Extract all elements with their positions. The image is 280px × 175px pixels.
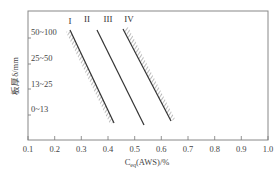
line-I: [70, 30, 114, 123]
line-IV: [123, 29, 171, 121]
y-tick-label: 13~25: [31, 79, 53, 89]
x-tick-label: 0.2: [49, 144, 60, 154]
label-IV: IV: [124, 14, 134, 24]
series-labels: I II III IV: [69, 14, 135, 26]
x-tick-label: 0.7: [183, 144, 194, 154]
y-tick-label: 0~13: [31, 104, 48, 114]
label-I: I: [69, 16, 72, 26]
x-tick-label: 0.4: [103, 144, 114, 154]
label-II: II: [84, 14, 90, 24]
y-tick-labels: 50~100 25~50 13~25 0~13: [31, 27, 57, 114]
x-tick-label: 1.0: [263, 144, 274, 154]
hatch-band: [124, 27, 175, 121]
y-tick-label: 25~50: [31, 53, 53, 63]
x-tick-labels: 0.1 0.2 0.3 0.4 0.5 0.6 0.7 0.8 0.9 1.0: [23, 144, 274, 154]
x-tick-label: 0.5: [129, 144, 140, 154]
label-III: III: [104, 14, 113, 24]
hatch-band: [66, 30, 114, 124]
x-tick-label: 0.6: [156, 144, 167, 154]
series-IV: [123, 27, 175, 121]
y-axis-title: 板厚δ/mm: [10, 57, 20, 95]
x-tick-label: 0.8: [209, 144, 220, 154]
chart: 0.1 0.2 0.3 0.4 0.5 0.6 0.7 0.8 0.9 1.0 …: [0, 0, 280, 175]
x-axis: [28, 136, 268, 140]
series-I: [66, 30, 114, 124]
x-tick-label: 0.3: [76, 144, 87, 154]
x-tick-label: 0.9: [236, 144, 247, 154]
x-tick-label: 0.1: [23, 144, 34, 154]
y-tick-label: 50~100: [31, 27, 57, 37]
x-axis-title: Ceq(AWS)/%: [125, 157, 170, 168]
